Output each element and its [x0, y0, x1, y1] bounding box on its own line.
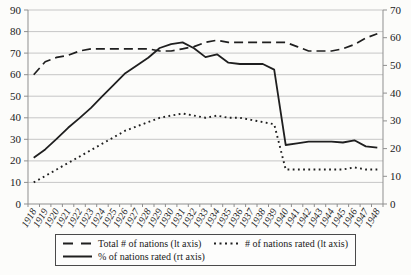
left-axis-label: 40 [10, 111, 22, 123]
right-axis-label: 40 [390, 87, 402, 99]
legend-label-nations-rated: # of nations rated (lt axis) [245, 238, 348, 249]
left-axis-label: 0 [16, 198, 22, 210]
right-axis-label: 0 [390, 198, 396, 210]
solid-line-icon [63, 254, 92, 259]
right-axis-label: 50 [390, 59, 402, 71]
right-axis-label: 30 [390, 114, 402, 126]
series-dotted-line [34, 114, 378, 183]
legend-item-total-nations: Total # of nations (lt axis) [63, 238, 201, 249]
legend: Total # of nations (lt axis) # of nation… [55, 234, 356, 266]
left-axis-label: 30 [10, 133, 22, 145]
right-axis-label: 10 [390, 170, 402, 182]
legend-label-total-nations: Total # of nations (lt axis) [98, 238, 201, 249]
left-axis-label: 10 [10, 176, 22, 188]
legend-label-pct-rated: % of nations rated (rt axis) [98, 251, 205, 262]
left-axis-label: 50 [10, 90, 22, 102]
legend-item-nations-rated: # of nations rated (lt axis) [214, 238, 348, 249]
series-solid-line [34, 42, 378, 157]
chart-container: 0102030405060708090010203040506070191819… [0, 0, 411, 275]
series-dashed-line [34, 34, 378, 75]
dashed-line-icon [63, 241, 92, 246]
legend-row-1: Total # of nations (lt axis) # of nation… [63, 238, 348, 249]
left-axis-label: 60 [10, 68, 22, 80]
legend-item-pct-rated: % of nations rated (rt axis) [63, 251, 205, 262]
left-axis-label: 90 [10, 4, 22, 16]
left-axis-label: 70 [10, 47, 22, 59]
left-axis-label: 20 [10, 154, 22, 166]
right-axis-label: 60 [390, 31, 402, 43]
dotted-line-icon [214, 241, 239, 246]
right-axis-label: 20 [390, 142, 402, 154]
left-axis-label: 80 [10, 25, 22, 37]
legend-row-2: % of nations rated (rt axis) [63, 251, 348, 262]
right-axis-label: 70 [390, 4, 402, 16]
